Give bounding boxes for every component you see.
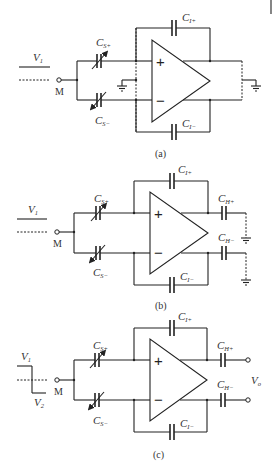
minus-input-sign: −: [154, 391, 163, 408]
vo-label: Vo: [251, 374, 262, 387]
terminal-m: [55, 378, 59, 382]
v1-label: V1: [28, 203, 38, 216]
caption-a: (a): [155, 148, 166, 160]
v2-label: V2: [34, 396, 45, 409]
minus-input-sign: −: [156, 92, 165, 109]
cs-plus-label: CS+: [94, 192, 109, 205]
cs-plus-label: CS+: [93, 339, 108, 352]
cs-minus-label: CS−: [95, 114, 110, 127]
panel-c: V1 V2 M CS+ CS− + −: [17, 310, 262, 461]
terminal-m: [57, 78, 61, 82]
minus-input-sign: −: [154, 244, 163, 261]
ground-icon: [117, 80, 127, 91]
ch-plus-label: CH+: [218, 192, 234, 205]
ground-icon: [251, 80, 261, 91]
terminal-m: [55, 230, 59, 234]
caption-b: (b): [155, 300, 167, 312]
ground-icon: [241, 280, 251, 285]
node-m-label: M: [55, 86, 64, 97]
cs-minus-label: CS−: [93, 266, 108, 279]
output-terminal-minus: [246, 398, 250, 402]
plus-input-sign: +: [156, 53, 165, 70]
ground-icon: [241, 238, 251, 243]
ci-plus-label: CI+: [178, 163, 192, 176]
v1-label: V1: [21, 350, 31, 363]
ci-minus-label: CI−: [180, 270, 194, 283]
ch-minus-label: CH−: [218, 231, 234, 244]
node-m-label: M: [54, 386, 63, 397]
plus-input-sign: +: [154, 352, 163, 369]
ci-plus-label: CI+: [178, 310, 192, 323]
ci-minus-label: CI−: [180, 417, 194, 430]
plus-input-sign: +: [154, 205, 163, 222]
caption-c: (c): [153, 449, 164, 461]
panel-b: V1 M CS+ CS− + −: [17, 163, 251, 312]
ch-minus-label: CH−: [217, 378, 233, 391]
node-m-label: M: [53, 238, 62, 249]
ci-minus-label: CI−: [182, 117, 196, 130]
cs-plus-label: CS+: [96, 36, 111, 49]
panel-a: V1 M CS+ CS−: [19, 11, 261, 160]
ch-plus-label: CH+: [217, 339, 233, 352]
circuit-figure: V1 M CS+ CS−: [0, 0, 275, 473]
output-terminal-plus: [246, 358, 250, 362]
ci-plus-label: CI+: [182, 11, 196, 24]
v1-label: V1: [33, 51, 43, 64]
cs-minus-label: CS−: [93, 414, 108, 427]
